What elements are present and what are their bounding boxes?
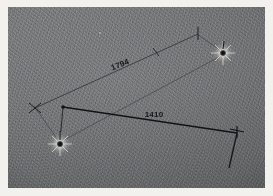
star-upper-right xyxy=(211,41,236,66)
measurement-label-1410: 1410 xyxy=(145,110,164,119)
leader-right-drop xyxy=(229,133,237,168)
star-lower-left xyxy=(47,131,73,157)
leader-ll-to-ur-star xyxy=(62,57,219,141)
measurement-drawing: 1794 1410 xyxy=(8,7,265,188)
figure-root: 1794 1410 xyxy=(0,0,273,196)
photographic-plate: 1794 1410 xyxy=(8,7,265,188)
measurement-label-1794: 1794 xyxy=(110,57,131,72)
star-lower-left-core xyxy=(57,141,63,147)
leader-lines-group xyxy=(36,35,220,141)
tick-left-x-icon xyxy=(29,103,41,113)
star-upper-right-core xyxy=(220,50,226,56)
vertex-dot-left xyxy=(61,105,64,108)
baseline-1794-line xyxy=(35,34,198,108)
speck-faint-icon xyxy=(99,32,101,34)
